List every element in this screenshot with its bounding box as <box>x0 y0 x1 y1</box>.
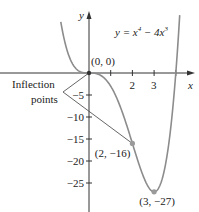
x-axis-arrow-icon <box>187 71 195 76</box>
point-marker <box>87 71 91 75</box>
point-marker <box>152 189 157 194</box>
function-graph: 23 −5−10−15−20−25 (0, 0)(2, −16)(3, −27)… <box>0 0 199 212</box>
y-axis-arrow-icon <box>87 11 92 19</box>
annotation-points: points <box>31 93 58 105</box>
x-axis-label: x <box>187 79 193 91</box>
point-label: (2, −16) <box>95 147 131 160</box>
y-tick-label: −10 <box>67 111 85 123</box>
equation-label: y = x4 − 4x3 <box>114 25 169 38</box>
point-label: (3, −27) <box>139 195 175 208</box>
point-label: (0, 0) <box>91 55 115 68</box>
point-marker <box>130 141 135 146</box>
y-tick-label: −25 <box>67 177 85 189</box>
x-tick-label: 2 <box>129 79 135 91</box>
key-points: (0, 0)(2, −16)(3, −27) <box>87 55 175 208</box>
annotation-inflection: Inflection <box>12 78 55 90</box>
y-tick-label: −15 <box>67 133 85 145</box>
y-axis-label: y <box>78 9 84 21</box>
x-tick-label: 3 <box>151 79 157 91</box>
y-tick-label: −5 <box>72 89 84 101</box>
y-tick-label: −20 <box>67 155 85 167</box>
